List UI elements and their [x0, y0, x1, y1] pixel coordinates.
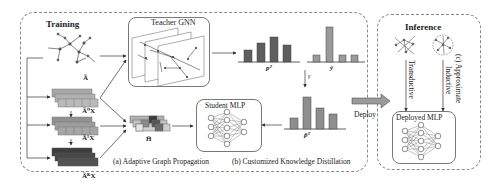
student-mlp-title: Student MLP [205, 101, 245, 110]
student-target-bars [284, 97, 346, 129]
soft-label: ŷ [330, 64, 333, 72]
input-graph-icon [48, 33, 95, 63]
caption-customized-knowledge-distillation: (b) Customized Knowledge Distillation [232, 157, 351, 166]
deploy-arrow-icon [352, 94, 390, 108]
inductive-label: Inductive [444, 66, 453, 94]
student-target-label: p̃ᵀ [304, 131, 310, 139]
inductive-graph-icon [433, 35, 453, 55]
feature-label-0: Ã⁰X [82, 106, 95, 115]
transductive-graph-icon [395, 36, 415, 54]
teacher-gnn-title: Teacher GNN [151, 18, 196, 27]
ellipsis-label: ... [68, 138, 73, 144]
transductive-label: Transductive [407, 60, 416, 99]
combined-feature-stack [130, 116, 170, 131]
caption-adaptive-graph-propagation: (a) Adaptive Graph Propagation [113, 157, 209, 166]
approximate-caption: (c) Approximate [454, 54, 463, 103]
feature-label-k: ÃᴷX [82, 172, 95, 180]
feature-label-1: Ã¹X [82, 134, 94, 142]
adjacency-label: Ã [83, 74, 88, 82]
gamma-label: γ [308, 73, 310, 79]
feature-stack-0 [52, 89, 98, 107]
deploy-label: Deploy [354, 110, 376, 119]
teacher-gnn-box [128, 17, 210, 87]
feature-stack-1 [52, 117, 98, 135]
soft-label-bars [307, 27, 365, 62]
deployed-mlp-title: Deployed MLP [396, 113, 442, 122]
teacher-output-label: pᵀ [266, 64, 272, 72]
feature-stack-k [52, 148, 98, 166]
combined-label: H̃ [146, 135, 151, 143]
teacher-output-bars [238, 37, 300, 62]
